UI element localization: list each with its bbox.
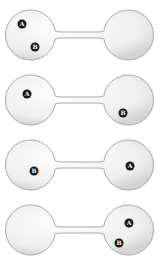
particle-label: A — [126, 219, 132, 226]
container-panel-2: AB — [0, 65, 160, 127]
particle-b: B — [31, 43, 40, 52]
particle-b: B — [30, 167, 39, 176]
particle-label: B — [120, 109, 125, 116]
particle-b: B — [115, 239, 124, 248]
particle-label: A — [24, 90, 30, 97]
particle-a: A — [125, 219, 134, 228]
container-panel-1: AB — [0, 0, 160, 62]
two-bulb-container — [6, 10, 154, 60]
particle-a: A — [126, 162, 135, 171]
particle-label: A — [127, 162, 133, 169]
two-bulb-container — [6, 205, 154, 255]
particle-label: B — [32, 43, 37, 50]
two-bulb-container — [6, 75, 154, 125]
container-panel-3: BA — [0, 130, 160, 192]
particle-label: A — [19, 20, 25, 27]
particle-a: A — [23, 90, 32, 99]
container-panel-4: AB — [0, 195, 160, 257]
particle-b: B — [119, 109, 128, 118]
particle-label: B — [31, 167, 36, 174]
particle-label: B — [116, 239, 121, 246]
particle-a: A — [18, 20, 27, 29]
